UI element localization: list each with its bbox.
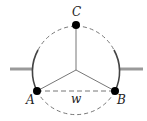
solid-arc-left [32,50,38,91]
propagator-a-center [37,70,76,91]
label-w: w [71,92,82,106]
dashed-arc-upper-right [76,26,114,50]
solid-arc-right [114,50,120,91]
vertex-c [72,21,80,29]
propagator-b-center [76,70,115,91]
diagram-canvas: C A B w [0,0,147,121]
dashed-arc-upper-left [38,26,76,50]
label-a: A [25,93,35,107]
label-b: B [116,93,126,107]
label-c: C [72,5,81,19]
